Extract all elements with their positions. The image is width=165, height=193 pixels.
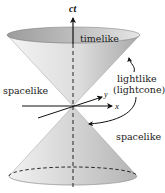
x-axis-label: x <box>114 101 119 111</box>
lightcone-diagram: ct x y timelike spacelike lightlike (lig… <box>0 0 165 193</box>
spacelike-right-label: spacelike <box>116 131 161 142</box>
y-axis-label: y <box>103 90 108 99</box>
lightcone-label: (lightcone) <box>113 84 165 95</box>
lightlike-pointer-arrow-down <box>89 97 136 124</box>
lightlike-label: lightlike <box>117 73 157 84</box>
spacelike-left-label: spacelike <box>3 85 48 96</box>
ct-axis-label: ct <box>69 3 77 14</box>
lightlike-pointer-arrow-up <box>129 58 134 72</box>
timelike-label: timelike <box>80 33 119 44</box>
